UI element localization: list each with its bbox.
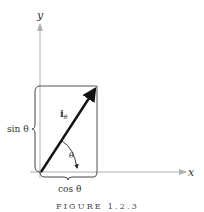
- figure-caption: FIGURE 1.2.3: [56, 202, 139, 211]
- y-axis-label: y: [36, 9, 44, 22]
- x-axis-label: x: [188, 166, 195, 179]
- sin-label: sin θ: [7, 124, 29, 134]
- angle-label: θ: [69, 151, 74, 160]
- unit-vector-arrow: [41, 89, 95, 172]
- cos-brace: [40, 172, 97, 180]
- unit-vector-figure: y x iθ θ sin θ cos θ FIGURE 1.2.3: [0, 0, 204, 212]
- cos-label: cos θ: [58, 184, 81, 194]
- sin-brace: [32, 86, 40, 172]
- vector-label: iθ: [60, 108, 68, 120]
